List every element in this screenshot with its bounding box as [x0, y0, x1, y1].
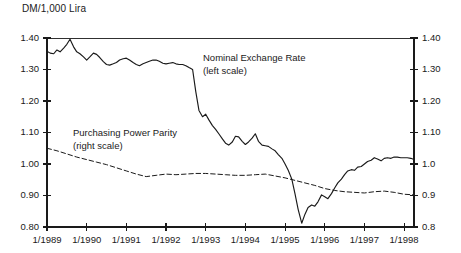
x-axis-tick-label: 1/1998	[381, 234, 427, 245]
y-axis-left-tick-label: 1.20	[5, 95, 39, 106]
y-axis-right-tick-label: 0.9	[422, 189, 456, 200]
y-axis-right-tick-label: 1.30	[422, 63, 456, 74]
y-axis-left-tick-label: 1.30	[5, 63, 39, 74]
y-axis-left-tick-label: 1.10	[5, 126, 39, 137]
y-axis-right-tick-label: 0.8	[422, 221, 456, 232]
nominal-exchange-rate-annotation-line1: Nominal Exchange Rate	[203, 52, 305, 65]
chart-plot-area	[0, 0, 461, 253]
y-axis-left-tick-label: 1.00	[5, 158, 39, 169]
y-axis-left-tick-label: 0.80	[5, 221, 39, 232]
nominal-exchange-rate-annotation-line2: (left scale)	[203, 65, 305, 78]
chart-title: DM/1,000 Lira	[22, 3, 86, 14]
purchasing-power-parity-annotation-line1: Purchasing Power Parity	[73, 127, 177, 140]
series-line-purchasing-power-parity	[47, 148, 414, 195]
y-axis-right-tick-label: 1.0	[422, 158, 456, 169]
purchasing-power-parity-annotation-line2: (right scale)	[73, 140, 177, 153]
purchasing-power-parity-annotation: Purchasing Power Parity(right scale)	[73, 127, 177, 152]
y-axis-right-tick-label: 1.10	[422, 126, 456, 137]
y-axis-left-tick-label: 1.40	[5, 32, 39, 43]
y-axis-right-tick-label: 1.20	[422, 95, 456, 106]
chart-figure: DM/1,000 Lira 1.401.301.201.101.000.900.…	[0, 0, 461, 253]
y-axis-left-tick-label: 0.90	[5, 189, 39, 200]
nominal-exchange-rate-annotation: Nominal Exchange Rate(left scale)	[203, 52, 305, 77]
y-axis-right-tick-label: 1.40	[422, 32, 456, 43]
